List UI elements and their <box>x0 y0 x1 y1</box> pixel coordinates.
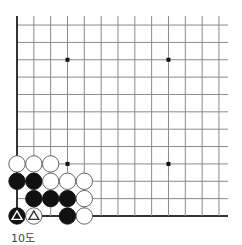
black-stone <box>26 190 42 206</box>
white-stone <box>26 156 42 172</box>
black-stone-disc <box>42 190 58 206</box>
black-stone <box>59 208 75 224</box>
black-stone <box>9 173 25 189</box>
black-stone <box>26 173 42 189</box>
white-stone-disc <box>9 156 25 172</box>
diagram-caption: 10도 <box>11 229 35 245</box>
white-stone-disc <box>76 190 92 206</box>
black-stone-disc <box>59 190 75 206</box>
star-point-icon <box>166 162 170 166</box>
white-stone <box>76 190 92 206</box>
black-stone-disc <box>26 173 42 189</box>
black-stone-disc <box>26 190 42 206</box>
black-stone <box>42 190 58 206</box>
white-stone-disc <box>42 173 58 189</box>
white-stone <box>59 173 75 189</box>
white-stone-disc <box>59 173 75 189</box>
black-stone <box>59 190 75 206</box>
white-stone <box>42 156 58 172</box>
black-stone-disc <box>9 173 25 189</box>
white-stone <box>26 208 42 224</box>
white-stone <box>42 173 58 189</box>
white-stone <box>76 173 92 189</box>
black-stone-disc <box>59 208 75 224</box>
white-stone <box>76 208 92 224</box>
black-stone <box>9 208 25 224</box>
go-board <box>0 0 242 228</box>
white-stone-disc <box>26 156 42 172</box>
white-stone-disc <box>76 208 92 224</box>
star-point-icon <box>166 58 170 62</box>
star-point-icon <box>65 58 69 62</box>
star-point-icon <box>65 162 69 166</box>
white-stone-disc <box>76 173 92 189</box>
white-stone <box>9 156 25 172</box>
white-stone-disc <box>42 156 58 172</box>
